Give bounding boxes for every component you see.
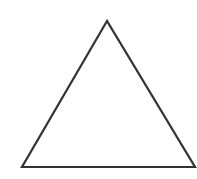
triangle-shape — [22, 21, 195, 167]
diagram-canvas — [0, 0, 197, 179]
triangle-diagram — [0, 0, 197, 179]
